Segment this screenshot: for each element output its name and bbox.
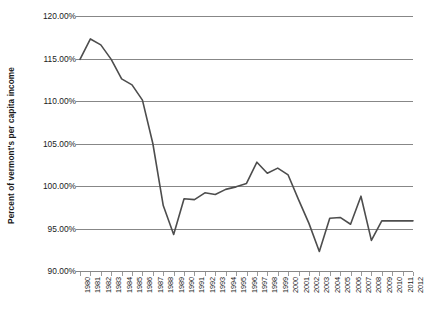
x-tickmark [111,272,112,276]
x-tickmark [236,272,237,276]
x-tickmark [267,272,268,276]
x-tickmark [392,272,393,276]
x-tick-label: 1980 [83,277,92,293]
y-axis-title-label: Percent of vermont's per capita income [7,67,16,224]
x-tickmark [194,272,195,276]
x-tick-label: 1984 [125,277,134,293]
x-tickmark [153,272,154,276]
x-tickmark [382,272,383,276]
x-tick-label: 2002 [312,277,321,293]
x-tick-label: 2007 [364,277,373,293]
x-tickmark [371,272,372,276]
x-tick-label: 1996 [250,277,259,293]
x-tickmark [80,272,81,276]
y-tick-label: 95.00% [20,224,76,234]
x-tick-label: 2010 [395,277,404,293]
y-axis-tick-labels: 120.00%115.00%110.00%105.00%100.00%95.00… [16,16,76,271]
data-series-line [80,16,413,271]
x-tick-label: 1991 [197,277,206,293]
x-tickmark [215,272,216,276]
x-tick-label: 1988 [166,277,175,293]
x-tickmark [257,272,258,276]
x-tickmark [288,272,289,276]
x-tick-label: 1986 [145,277,154,293]
x-tickmark [184,272,185,276]
x-tick-label: 1999 [281,277,290,293]
x-tickmark [413,272,414,276]
x-tick-label: 1998 [270,277,279,293]
x-tickmark [309,272,310,276]
x-tick-label: 2008 [374,277,383,293]
x-tickmark [101,272,102,276]
x-tickmark [299,272,300,276]
x-tickmark [90,272,91,276]
x-tick-label: 1989 [177,277,186,293]
y-tick-label: 110.00% [20,96,76,106]
x-tick-label: 2005 [343,277,352,293]
x-tick-label: 2009 [385,277,394,293]
x-tickmark [226,272,227,276]
x-tick-label: 1987 [156,277,165,293]
x-tick-label: 2001 [302,277,311,293]
chart-container: Percent of vermont's per capita income 1… [0,0,428,318]
x-tick-label: 1982 [104,277,113,293]
y-tick-label: 105.00% [20,139,76,149]
x-tick-label: 2012 [416,277,425,293]
x-tick-label: 1992 [208,277,217,293]
x-tickmark [132,272,133,276]
x-tickmark [403,272,404,276]
x-tickmark [142,272,143,276]
x-tickmark [340,272,341,276]
y-tick-label: 100.00% [20,181,76,191]
x-tickmark [351,272,352,276]
x-tickmark [247,272,248,276]
x-tickmark [205,272,206,276]
y-tick-label: 115.00% [20,54,76,64]
x-tick-label: 2000 [291,277,300,293]
x-tick-label: 2004 [333,277,342,293]
x-tickmark [174,272,175,276]
x-tickmark [330,272,331,276]
x-tick-label: 1983 [114,277,123,293]
x-tickmark [319,272,320,276]
x-tickmark [122,272,123,276]
x-tickmark [278,272,279,276]
plot-area [80,16,413,271]
x-tick-label: 1994 [229,277,238,293]
x-tick-label: 1993 [218,277,227,293]
x-tick-label: 2003 [322,277,331,293]
x-tick-label: 1990 [187,277,196,293]
x-tickmark [361,272,362,276]
x-tick-label: 1985 [135,277,144,293]
x-tick-label: 1997 [260,277,269,293]
x-tickmark [163,272,164,276]
y-tick-label: 120.00% [20,11,76,21]
series-polyline [80,39,413,252]
x-tick-label: 2006 [354,277,363,293]
x-tick-label: 1981 [93,277,102,293]
y-tick-label: 90.00% [20,266,76,276]
x-tick-label: 2011 [406,277,415,293]
x-axis-tick-labels: 1980198119821983198419851986198719881989… [80,272,413,318]
x-tick-label: 1995 [239,277,248,293]
